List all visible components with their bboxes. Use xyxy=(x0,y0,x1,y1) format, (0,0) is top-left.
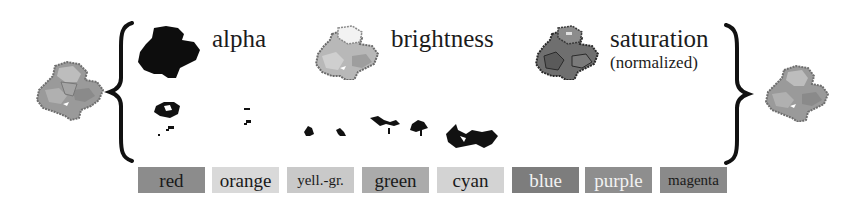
channel-label-brightness: brightness xyxy=(391,26,494,51)
hue-bin-label: cyan xyxy=(453,171,489,190)
alpha-mask-icon xyxy=(136,24,206,80)
hue-bin-label: orange xyxy=(220,171,272,190)
channel-sublabel-saturation: (normalized) xyxy=(610,54,698,71)
hue-bin-label: blue xyxy=(529,171,562,190)
hue-mask-yellow-green-icon xyxy=(300,120,360,140)
hue-bin-cyan: cyan xyxy=(437,167,504,193)
hue-bin-label: purple xyxy=(594,171,643,190)
hue-bin-label: magenta xyxy=(668,173,719,188)
hue-bin-orange: orange xyxy=(212,167,279,193)
hue-bin-blue: blue xyxy=(512,167,579,193)
hue-mask-red-icon xyxy=(150,100,190,140)
hue-mask-green-icon xyxy=(368,114,434,140)
brightness-map-icon xyxy=(314,24,384,80)
channel-label-saturation: saturation xyxy=(610,26,709,51)
hue-bin-label: red xyxy=(159,171,183,190)
input-flower-sprite-icon xyxy=(33,60,107,122)
channel-label-alpha: alpha xyxy=(212,26,266,51)
hue-bin-yellow-green: yell.-gr. xyxy=(287,167,354,193)
right-brace xyxy=(722,22,754,167)
hue-bin-label: green xyxy=(374,171,416,190)
saturation-map-icon xyxy=(534,24,604,80)
hue-bin-magenta: magenta xyxy=(660,167,727,193)
output-flower-sprite-icon xyxy=(762,64,832,122)
hue-bin-label: yell.-gr. xyxy=(297,173,344,188)
hue-bin-purple: purple xyxy=(585,167,652,193)
hue-bin-green: green xyxy=(362,167,429,193)
hue-mask-cyan-icon xyxy=(442,120,500,154)
hue-bin-red: red xyxy=(138,167,205,193)
hue-mask-orange-icon xyxy=(242,106,256,128)
left-brace xyxy=(104,20,136,165)
